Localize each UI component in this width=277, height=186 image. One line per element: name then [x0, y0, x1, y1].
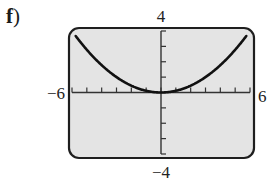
graph-window: 4 −4 −6 6	[0, 0, 277, 186]
y-max-label: 4	[157, 7, 166, 26]
y-min-label: −4	[152, 163, 171, 182]
x-max-label: 6	[258, 87, 267, 106]
x-min-label: −6	[47, 84, 65, 103]
